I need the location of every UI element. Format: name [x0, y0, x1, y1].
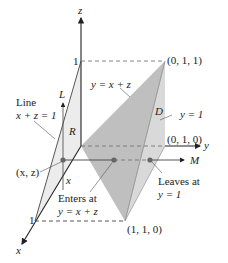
point-xz — [60, 157, 65, 162]
leaves-label-2: y = 1 — [157, 188, 181, 200]
point-label-110: (1, 1, 0) — [127, 223, 162, 236]
x-tick-1: 1 — [29, 214, 35, 226]
label-L: L — [58, 88, 65, 100]
point-enters — [111, 157, 116, 162]
point-leaves — [147, 157, 152, 162]
label-D: D — [154, 105, 163, 117]
x-axis-label: x — [15, 244, 21, 256]
plane-right-label: y = 1 — [179, 108, 203, 120]
label-M: M — [189, 154, 200, 166]
line-label: Line — [16, 96, 36, 108]
line-equation: x + z = 1 — [15, 109, 57, 121]
leader-line-eq — [34, 121, 55, 139]
enters-label-2: y = x + z — [57, 205, 99, 217]
point-label-xz: (x, z) — [16, 166, 40, 179]
label-R: R — [68, 125, 76, 137]
y-axis-label: y — [203, 139, 209, 151]
plane-slant-label: y = x + z — [90, 78, 132, 90]
z-tick-1: 1 — [73, 55, 79, 67]
point-label-011: (0, 1, 1) — [167, 54, 202, 67]
z-axis-label: z — [77, 4, 83, 16]
triple-integral-diagram: z y x 1 1 (0, 1, 1) (0, 1, 0) (1, 1, 0) … — [0, 0, 228, 263]
enters-label-1: Enters at — [58, 192, 97, 204]
label-x-marker: x — [65, 174, 71, 186]
leaves-label-1: Leaves at — [158, 175, 200, 187]
point-label-010: (0, 1, 0) — [167, 133, 202, 146]
